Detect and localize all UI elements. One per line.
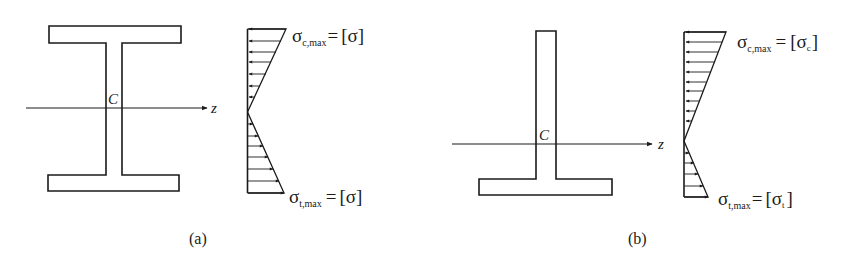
t-section-outline xyxy=(479,31,612,195)
max-compressive-stress-label: σc,max=[σc] xyxy=(737,31,818,54)
max-tensile-stress-label: σt,max=[σ] xyxy=(289,186,362,209)
figure-b: C z xyxy=(452,31,818,248)
bending-stress-figure: C z xyxy=(0,0,851,268)
figure-caption-a: (a) xyxy=(189,230,207,248)
stress-distribution-diagram xyxy=(248,29,287,193)
max-compressive-stress-label: σc,max=[σ] xyxy=(292,25,364,48)
compression-arrows xyxy=(249,29,286,97)
stress-distribution-diagram xyxy=(684,32,726,197)
tension-arrows xyxy=(248,124,284,193)
centroid-label: C xyxy=(539,127,550,143)
axis-label-z: z xyxy=(657,136,664,152)
axis-label-z: z xyxy=(210,100,217,116)
max-tensile-stress-label: σt,max=[σt] xyxy=(718,188,793,211)
centroid-label: C xyxy=(108,91,119,107)
figure-a: C z xyxy=(26,25,364,248)
figure-caption-b: (b) xyxy=(628,230,647,248)
compression-arrows xyxy=(686,32,726,121)
